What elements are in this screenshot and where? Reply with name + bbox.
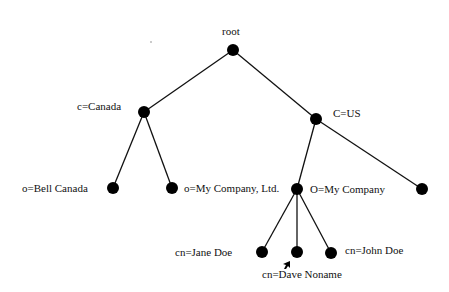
edge-us-us_other [316, 119, 422, 189]
edge-root-canada [144, 50, 233, 112]
node-us_other [416, 183, 428, 195]
edge-myco-jane [262, 189, 297, 252]
node-label-my-company-ltd: o=My Company, Ltd. [184, 182, 279, 194]
node-label-jane-doe: cn=Jane Doe [175, 246, 232, 258]
node-canada [138, 106, 150, 118]
edge-root-us [233, 50, 316, 119]
node-label-us: C=US [333, 107, 361, 119]
node-label-canada: c=Canada [77, 100, 121, 112]
node-label-my-company: O=My Company [310, 183, 385, 195]
node-us [310, 113, 322, 125]
edge-us-myco [297, 119, 316, 189]
node-root [227, 44, 239, 56]
node-john [325, 247, 337, 259]
node-bell [107, 182, 119, 194]
node-label-bell-canada: o=Bell Canada [22, 182, 88, 194]
node-myco [291, 183, 303, 195]
edge-canada-mycoltd [144, 112, 172, 188]
node-jane [256, 246, 268, 258]
ldap-tree-diagram: root c=Canada C=US o=Bell Canada o=My Co… [0, 0, 449, 292]
node-label-root: root [222, 25, 240, 37]
edge-canada-bell [113, 112, 144, 188]
node-dave [291, 246, 303, 258]
edge-myco-john [297, 189, 331, 253]
node-label-john-doe: cn=John Doe [345, 244, 403, 256]
node-mycoltd [166, 182, 178, 194]
tree-edges [113, 50, 422, 253]
stray-dot [150, 41, 152, 43]
node-label-dave-noname: cn=Dave Noname [262, 268, 342, 280]
tree-nodes [107, 44, 428, 259]
